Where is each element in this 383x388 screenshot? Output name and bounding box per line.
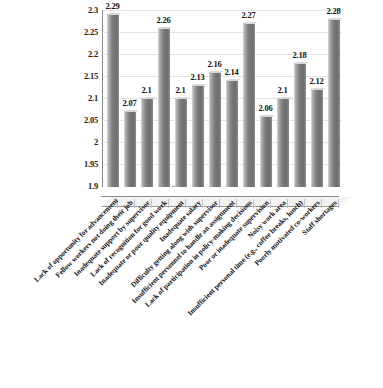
floor-tick — [185, 199, 186, 208]
category-label: Poorly motivated co-workers — [93, 199, 322, 388]
floor-tick — [202, 199, 203, 208]
plot-area: 2.292.072.12.262.12.132.162.142.272.062.… — [104, 10, 342, 186]
bar-slot[interactable]: 2.28 — [325, 10, 342, 187]
bar[interactable] — [124, 111, 136, 187]
bar-slot[interactable]: 2.27 — [240, 10, 257, 187]
bar-slot[interactable]: 2.1 — [138, 10, 155, 187]
y-axis-tick-label: 1.95 — [84, 160, 98, 169]
bar[interactable] — [294, 63, 306, 187]
floor-tick — [117, 199, 118, 208]
floor-tick — [236, 199, 237, 208]
bar-top-cap — [175, 97, 189, 99]
bar-value-label: 2.12 — [309, 76, 323, 86]
bar-value-label: 2.1 — [175, 85, 185, 95]
category-label: Insufficient personal time (e.g., coffee… — [88, 199, 305, 388]
bar[interactable] — [192, 85, 204, 187]
bar-value-label: 2.18 — [292, 50, 306, 60]
bar-value-label: 2.27 — [241, 10, 255, 20]
y-axis-line — [102, 10, 103, 187]
y-axis-tick-label: 2.3 — [88, 6, 98, 15]
category-label: Difficulty getting along with supervisor — [63, 199, 220, 356]
bar[interactable] — [311, 89, 323, 187]
bar[interactable] — [209, 72, 221, 187]
bar-slot[interactable]: 2.29 — [104, 10, 121, 187]
bar-slot[interactable]: 2.1 — [172, 10, 189, 187]
bar-value-label: 2.28 — [326, 6, 340, 16]
bar-slot[interactable]: 2.06 — [257, 10, 274, 187]
bar-top-cap — [277, 97, 291, 99]
floor-tick — [253, 199, 254, 208]
bar-slot[interactable]: 2.14 — [223, 10, 240, 187]
bar-value-label: 2.1 — [277, 85, 287, 95]
bar-value-label: 2.07 — [122, 98, 136, 108]
floor-tick — [219, 199, 220, 208]
y-axis-tick-label: 2.25 — [84, 28, 98, 37]
floor-tick — [270, 199, 271, 208]
bar-top-cap — [209, 71, 223, 73]
bar-top-cap — [243, 22, 257, 24]
category-label: Lack of participation in policy-making d… — [73, 199, 254, 380]
category-label: Inadequate salary — [58, 199, 203, 344]
bar-slot[interactable]: 2.07 — [121, 10, 138, 187]
y-axis-tick-label: 1.9 — [88, 182, 98, 191]
category-label: Noisy work area — [83, 199, 288, 388]
bar-top-cap — [328, 18, 342, 20]
bar[interactable] — [107, 14, 119, 187]
bar[interactable] — [243, 23, 255, 187]
category-label: Lack of recognition for good work — [48, 199, 168, 319]
bar-value-label: 2.29 — [105, 1, 119, 11]
bar-top-cap — [124, 110, 138, 112]
bar-value-label: 2.1 — [141, 85, 151, 95]
y-axis-tick-label: 2.05 — [84, 116, 98, 125]
bar[interactable] — [158, 28, 170, 187]
floor-tick — [321, 199, 322, 208]
bar-slot[interactable]: 2.16 — [206, 10, 223, 187]
bar-top-cap — [141, 97, 155, 99]
category-label: Insufficient personnel to handle an assi… — [68, 199, 237, 368]
floor-tick — [134, 199, 135, 208]
bar[interactable] — [175, 98, 187, 187]
category-label: Inadequate or poor quality equipment — [53, 199, 186, 332]
bar-value-label: 2.06 — [258, 103, 272, 113]
floor-tick — [151, 199, 152, 208]
bar-chart: 2.32.252.22.152.12.0521.951.9 2.292.072.… — [0, 0, 383, 388]
bar-top-cap — [260, 115, 274, 117]
category-label: Poor or inadequate supervision — [78, 199, 271, 388]
floor-tick — [338, 199, 339, 208]
bar[interactable] — [226, 80, 238, 187]
y-axis-tick-label: 2.1 — [88, 94, 98, 103]
bar-value-label: 2.16 — [207, 59, 221, 69]
bar[interactable] — [141, 98, 153, 187]
bar-top-cap — [158, 27, 172, 29]
floor-face — [101, 197, 350, 207]
bar-top-cap — [192, 84, 206, 86]
bar-slot[interactable]: 2.18 — [291, 10, 308, 187]
bar[interactable] — [277, 98, 289, 187]
y-axis-tick-label: 2 — [94, 138, 98, 147]
bar-value-label: 2.26 — [156, 15, 170, 25]
category-label: Fellow workers not doing their job — [38, 199, 134, 295]
y-axis: 2.32.252.22.152.12.0521.951.9 — [72, 10, 98, 186]
floor-tick — [168, 199, 169, 208]
category-label: Lack of opportunity for advancement — [33, 199, 117, 283]
bar-slot[interactable]: 2.1 — [274, 10, 291, 187]
bar-slot[interactable]: 2.12 — [308, 10, 325, 187]
bar[interactable] — [328, 19, 340, 187]
floor-tick — [287, 199, 288, 208]
category-label: Inadequate support by supervisor — [43, 199, 151, 307]
floor-tick — [304, 199, 305, 208]
category-label: Staff shortages — [98, 199, 339, 388]
bar-top-cap — [294, 62, 308, 64]
bar[interactable] — [260, 116, 272, 187]
bar-slot[interactable]: 2.26 — [155, 10, 172, 187]
bar-top-cap — [311, 88, 325, 90]
bar-value-label: 2.13 — [190, 72, 204, 82]
y-axis-tick-label: 2.2 — [88, 50, 98, 59]
bar-series: 2.292.072.12.262.12.132.162.142.272.062.… — [104, 10, 342, 187]
bar-value-label: 2.14 — [224, 67, 238, 77]
chart-floor — [101, 196, 351, 208]
bar-slot[interactable]: 2.13 — [189, 10, 206, 187]
y-axis-tick-label: 2.15 — [84, 72, 98, 81]
